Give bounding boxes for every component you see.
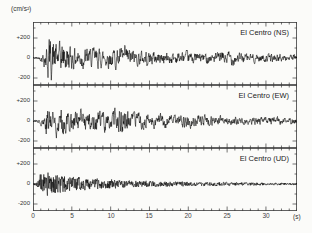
x-tick-label: 30	[256, 212, 276, 220]
y-tick-label: +200	[0, 34, 30, 41]
panel-el-centro-ns: El Centro (NS)	[33, 22, 297, 85]
panel-label-ns: El Centro (NS)	[239, 29, 290, 37]
y-tick-label: -200	[0, 74, 30, 81]
y-tick-label: -200	[0, 200, 30, 207]
x-tick-label: 0	[23, 212, 43, 220]
x-tick-label: 15	[139, 212, 159, 220]
x-tick-label: 10	[101, 212, 121, 220]
y-tick-label: +200	[0, 97, 30, 104]
x-axis-unit-label: (s)	[293, 213, 301, 221]
panel-el-centro-ew: El Centro (EW)	[33, 85, 297, 148]
x-tick-label: 20	[178, 212, 198, 220]
y-tick-label: -200	[0, 137, 30, 144]
y-tick-label: +200	[0, 160, 30, 167]
seismogram-figure: (cm/s²) El Centro (NS) +200 0 -200 El Ce…	[0, 0, 312, 233]
y-tick-label: 0	[0, 117, 30, 124]
y-axis-unit-label: (cm/s²)	[11, 5, 31, 12]
x-tick-label: 5	[62, 212, 82, 220]
y-tick-label: 0	[0, 180, 30, 187]
panel-el-centro-ud: El Centro (UD)	[33, 148, 297, 211]
panel-label-ud: El Centro (UD)	[239, 155, 290, 163]
panel-label-ew: El Centro (EW)	[238, 92, 290, 100]
y-tick-label: 0	[0, 54, 30, 61]
x-tick-label: 25	[217, 212, 237, 220]
